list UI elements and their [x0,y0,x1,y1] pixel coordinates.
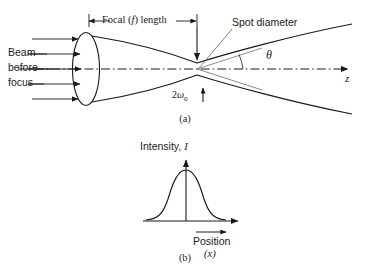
beam-label-line-3: focus [8,77,33,88]
divergence-angle-label: θ [266,49,272,62]
intensity-axis-label: Intensity, I [140,141,188,152]
spot-diameter-label: Spot diameter [232,17,297,28]
beam-waist-label: 2ω0 [172,90,188,104]
gaussian-beam-focus-figure: Focal (f) length Spot diameter Beam befo… [0,0,370,268]
beam-envelope-upper [92,24,352,63]
position-axis-label: Position [193,236,230,247]
beam-label-line-1: Beam [8,47,35,58]
beam-label-line-2: before [8,62,38,73]
spot-diameter-leader [199,29,232,68]
figure-vector-canvas [0,0,370,268]
beam-envelope-lower [92,75,352,114]
beam-waist-label-symbol: ω [177,89,184,100]
panel-a-caption: (a) [167,113,203,124]
focal-length-label-post: ) length [134,14,166,25]
focal-length-label: Focal (f) length [102,14,167,25]
position-axis-variable: (x) [204,248,216,259]
beam-waist-label-subscript: 0 [184,95,188,103]
focal-length-label-pre: Focal ( [102,14,131,25]
intensity-axis-label-text: Intensity, [140,140,184,152]
divergence-angle-arc [239,55,243,70]
panel-b-caption: (b) [167,252,203,263]
z-axis-label: z [345,73,349,85]
intensity-axis-label-variable: I [184,141,188,152]
